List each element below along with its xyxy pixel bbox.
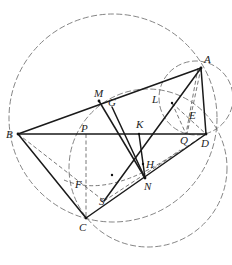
segment-mn: [99, 101, 145, 178]
segment-a-foot: [186, 68, 198, 134]
label-e: E: [188, 109, 196, 121]
points: [17, 67, 208, 220]
label-n: N: [143, 180, 152, 192]
label-l: L: [151, 93, 158, 105]
label-k: K: [135, 118, 144, 130]
label-q: Q: [180, 134, 188, 146]
label-m: M: [93, 87, 104, 99]
segment-lq: [172, 103, 186, 134]
segment-ad: [201, 68, 206, 134]
segment-bs: [18, 134, 104, 201]
label-c: C: [79, 221, 87, 233]
label-b: B: [6, 128, 13, 140]
label-s: S: [99, 195, 105, 207]
segment-bc: [18, 134, 86, 218]
label-p: P: [80, 122, 88, 134]
circumcircle-abc: [9, 14, 217, 222]
circle-diameter-ad: [159, 61, 232, 135]
geometry-diagram: A B C D M G K H N L E Q P F S: [0, 0, 232, 265]
label-g: G: [108, 96, 116, 108]
label-f: F: [74, 178, 82, 190]
label-h: H: [145, 158, 155, 170]
label-d: D: [200, 137, 209, 149]
label-a: A: [203, 53, 211, 65]
